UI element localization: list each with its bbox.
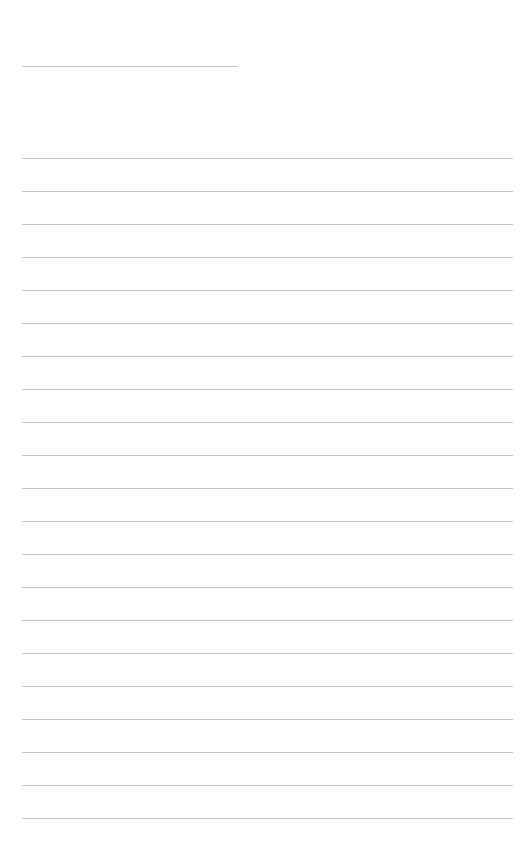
- ruled-lines: [22, 158, 513, 819]
- ruled-line: [22, 818, 513, 819]
- ruled-line: [22, 290, 513, 323]
- ruled-line: [22, 521, 513, 554]
- ruled-line: [22, 389, 513, 422]
- ruled-line: [22, 422, 513, 455]
- ruled-line: [22, 686, 513, 719]
- ruled-line: [22, 719, 513, 752]
- ruled-line: [22, 752, 513, 785]
- ruled-line: [22, 488, 513, 521]
- lined-paper-page: [0, 0, 527, 864]
- ruled-line: [22, 587, 513, 620]
- ruled-line: [22, 620, 513, 653]
- title-underline: [22, 66, 238, 67]
- ruled-line: [22, 356, 513, 389]
- ruled-line: [22, 224, 513, 257]
- ruled-line: [22, 323, 513, 356]
- ruled-line: [22, 455, 513, 488]
- ruled-line: [22, 554, 513, 587]
- ruled-line: [22, 785, 513, 818]
- ruled-line: [22, 257, 513, 290]
- ruled-line: [22, 653, 513, 686]
- ruled-line: [22, 158, 513, 191]
- ruled-line: [22, 191, 513, 224]
